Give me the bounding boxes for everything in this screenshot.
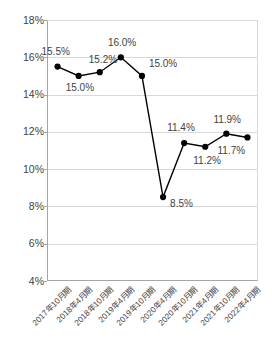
data-point-label: 11.2%	[193, 156, 221, 166]
data-point-marker	[118, 54, 124, 60]
data-point-marker	[97, 69, 103, 75]
data-point-label: 16.0%	[108, 38, 136, 48]
data-point-marker	[244, 134, 250, 140]
data-point-label: 15.2%	[89, 55, 117, 65]
data-point-label: 8.5%	[170, 199, 193, 209]
data-point-label: 11.7%	[218, 146, 246, 156]
data-point-marker	[202, 144, 208, 150]
data-point-label: 15.0%	[66, 83, 94, 93]
data-point-marker	[223, 131, 229, 137]
data-point-marker	[54, 64, 60, 70]
data-point-marker	[139, 73, 145, 79]
line-chart: 18%16%14%12%10%8%6%4% 15.5%15.0%15.2%16.…	[0, 0, 272, 346]
data-point-marker	[181, 140, 187, 146]
data-point-marker	[76, 73, 82, 79]
data-point-label: 11.4%	[167, 123, 195, 133]
data-point-label: 15.5%	[42, 47, 70, 57]
data-point-marker	[160, 194, 166, 200]
series-line	[58, 57, 248, 197]
data-point-label: 11.9%	[213, 115, 241, 125]
data-point-label: 15.0%	[149, 59, 177, 69]
